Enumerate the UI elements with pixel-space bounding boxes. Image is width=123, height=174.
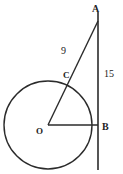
length-label-ab: 15 (104, 69, 114, 79)
point-label-c: C (63, 71, 70, 80)
secant-line-segment-ao (48, 21, 98, 125)
point-label-b: B (102, 122, 109, 132)
geometry-canvas (0, 0, 123, 174)
geometry-diagram: A C O B 9 15 (0, 0, 123, 174)
length-label-ac: 9 (61, 46, 66, 56)
point-label-o: O (36, 127, 43, 136)
point-label-a: A (92, 4, 99, 14)
